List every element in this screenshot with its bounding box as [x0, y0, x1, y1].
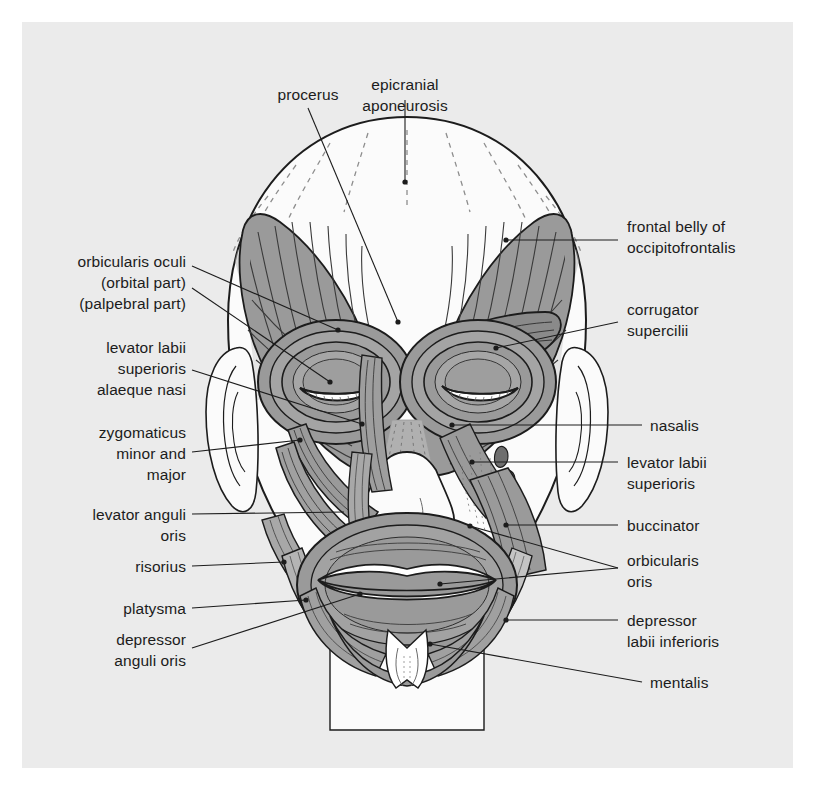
- label-epicranial-aponeurosis: epicranial aponeurosis: [325, 74, 485, 116]
- label-orbicularis-oris: orbicularis oris: [627, 550, 812, 592]
- label-corrugator-supercilii: corrugator supercilii: [627, 299, 812, 341]
- left-ear: [206, 348, 258, 512]
- label-levator-labii-superioris: levator labii superioris: [627, 452, 812, 494]
- label-depressor-anguli-oris: depressor anguli oris: [0, 629, 186, 671]
- figure-stage: procerus epicranial aponeurosis orbicula…: [0, 0, 815, 791]
- label-platysma: platysma: [0, 598, 186, 619]
- label-orbicularis-oculi: orbicularis oculi (orbital part) (palpeb…: [0, 251, 186, 314]
- label-zygomaticus-minor-and-major: zygomaticus minor and major: [0, 422, 186, 485]
- label-levator-anguli-oris: levator anguli oris: [0, 504, 186, 546]
- label-mentalis: mentalis: [650, 672, 810, 693]
- label-buccinator: buccinator: [627, 515, 812, 536]
- right-ear: [556, 348, 608, 512]
- label-nasalis: nasalis: [650, 415, 810, 436]
- label-frontal-belly-of-occipitofrontalis: frontal belly of occipitofrontalis: [627, 216, 812, 258]
- label-depressor-labii-inferioris: depressor labii inferioris: [627, 610, 812, 652]
- label-risorius: risorius: [0, 556, 186, 577]
- label-levator-labii-superioris-alaeque-nasi: levator labii superioris alaeque nasi: [0, 337, 186, 400]
